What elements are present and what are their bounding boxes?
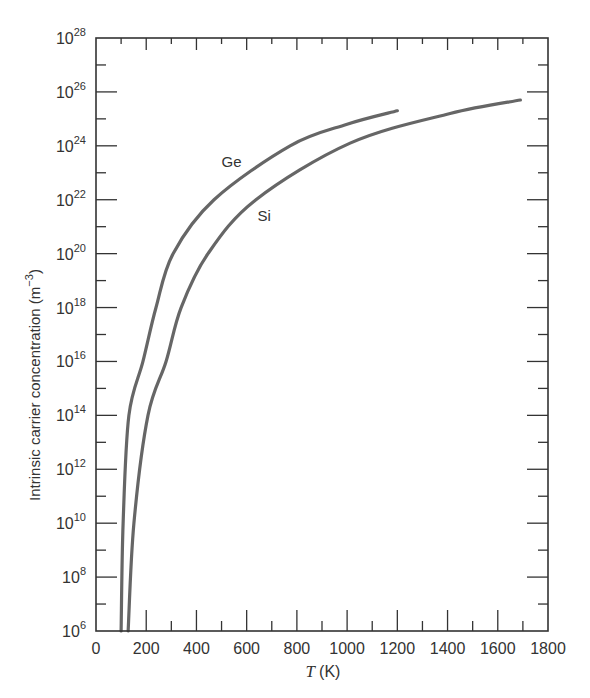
x-tick-label: 600 — [233, 640, 260, 657]
data-curves — [121, 100, 520, 631]
y-axis-label: Intrinsic carrier concentration (m−3) — [23, 269, 43, 501]
y-tick-label: 1012 — [56, 457, 86, 478]
y-tick-label: 1022 — [56, 188, 86, 209]
x-tick-label: 1400 — [430, 640, 466, 657]
x-tick-label: 1000 — [329, 640, 365, 657]
y-tick-label: 106 — [62, 619, 86, 640]
y-tick-label: 1014 — [56, 403, 86, 424]
y-tick-label: 1010 — [56, 511, 86, 532]
x-axis-label: T(K) — [306, 662, 341, 681]
x-tick-label: 200 — [133, 640, 160, 657]
carrier-concentration-chart: 0200400600800100012001400160018001061081… — [0, 0, 590, 698]
x-tick-label: 1800 — [530, 640, 566, 657]
curve-si — [128, 100, 520, 631]
x-tick-label: 400 — [183, 640, 210, 657]
y-tick-label: 1020 — [56, 242, 86, 263]
x-tick-label: 1200 — [380, 640, 416, 657]
plot-frame — [96, 38, 548, 631]
y-tick-label: 1026 — [56, 80, 86, 101]
x-tick-label: 0 — [92, 640, 101, 657]
series-label-si: Si — [258, 207, 271, 224]
y-tick-label: 1024 — [56, 134, 86, 155]
axis-ticks — [96, 38, 548, 631]
y-tick-label: 1018 — [56, 296, 86, 317]
y-tick-label: 108 — [62, 565, 86, 586]
series-label-ge: Ge — [222, 153, 242, 170]
y-tick-label: 1016 — [56, 349, 86, 370]
x-tick-label: 800 — [284, 640, 311, 657]
x-tick-label: 1600 — [480, 640, 516, 657]
y-tick-label: 1028 — [56, 26, 86, 47]
